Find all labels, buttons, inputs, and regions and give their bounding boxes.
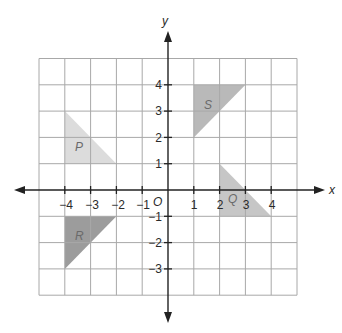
y-tick-label: −3: [148, 262, 162, 276]
y-tick-label: 2: [155, 131, 162, 145]
x-tick-label: −2: [111, 198, 125, 212]
y-axis-label: y: [161, 14, 169, 28]
coordinate-plane: −4 −3 −2 −1 1 2 3 4 4 3 2 1 −1 −2 −3 x y…: [0, 0, 342, 333]
arrow-left-icon: [14, 186, 25, 194]
y-tick-label: −2: [148, 236, 162, 250]
y-tick-label: 3: [155, 104, 162, 118]
shape-label-p: P: [75, 140, 83, 154]
y-tick-label: 4: [155, 78, 162, 92]
y-tick-label: −1: [148, 210, 162, 224]
y-tick-label: 1: [155, 157, 162, 171]
arrow-down-icon: [164, 312, 172, 323]
shape-label-r: R: [75, 229, 84, 243]
x-axis: [14, 186, 325, 194]
x-tick-label: 2: [217, 198, 224, 212]
x-tick-label: 4: [269, 198, 276, 212]
x-tick-label: 3: [243, 198, 250, 212]
arrow-right-icon: [314, 186, 325, 194]
origin-label: O: [153, 195, 162, 209]
x-tick-label: −3: [85, 198, 99, 212]
shape-label-q: Q: [228, 192, 237, 206]
arrow-up-icon: [164, 31, 172, 42]
x-axis-label: x: [328, 183, 336, 197]
x-tick-label: −4: [59, 198, 73, 212]
y-axis: [164, 31, 172, 323]
shape-label-s: S: [204, 98, 212, 112]
x-tick-label: 1: [191, 198, 198, 212]
